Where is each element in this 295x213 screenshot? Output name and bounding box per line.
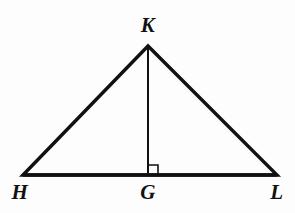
vertex-label-g: G [140,182,156,203]
vertex-label-k: K [141,15,156,36]
triangle-hkl-outline [23,46,277,175]
vertex-label-h: H [12,182,29,203]
vertex-label-l: L [270,182,283,203]
geometry-figure-canvas: K H G L [0,0,295,213]
